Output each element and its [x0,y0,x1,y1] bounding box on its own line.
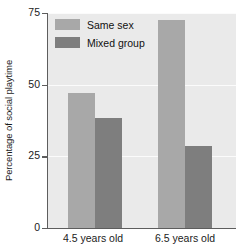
bar-mixed-group-4.5[interactable] [95,118,122,228]
y-tick-label-25: 25 [6,150,40,161]
x-axis-line [47,228,236,229]
y-tick-mark-0 [42,228,48,229]
y-axis-title: Percentage of social playtime [2,13,16,228]
y-tick-label-50: 50 [6,79,40,90]
gridline-75 [48,13,236,14]
x-category-label-2: 6.5 years old [140,232,230,245]
legend-swatch-icon [55,37,80,48]
y-tick-label-75: 75 [6,7,40,18]
bar-same-sex-6.5[interactable] [158,20,185,228]
legend-label: Mixed group [87,37,145,49]
y-tick-mark-75 [42,13,48,14]
x-category-label-1: 4.5 years old [48,232,138,245]
legend-swatch-icon [55,19,80,30]
y-tick-label-0: 0 [6,222,40,233]
y-tick-mark-25 [42,156,48,157]
legend-item-same-sex[interactable]: Same sex [55,17,147,32]
legend-label: Same sex [87,19,134,31]
bar-chart: Percentage of social playtime Same sex M… [0,0,236,252]
y-tick-mark-50 [42,85,48,86]
plot-area: Same sex Mixed group [48,13,236,228]
gridline-50 [48,85,236,86]
bar-same-sex-4.5[interactable] [68,93,95,228]
legend: Same sex Mixed group [55,17,147,53]
y-axis-line [47,13,48,229]
bar-mixed-group-6.5[interactable] [185,146,212,228]
legend-item-mixed-group[interactable]: Mixed group [55,35,147,50]
